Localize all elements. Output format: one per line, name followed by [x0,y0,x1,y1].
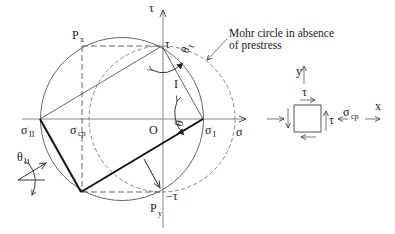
theta-i-arc-arrow [152,63,183,73]
svg-text:y: y [158,209,162,218]
tau-point-label: τ [165,37,170,51]
line-i-label: I [174,77,178,91]
svg-text:σ: σ [205,123,212,137]
arrow-to-py [144,159,160,188]
element-square [294,105,321,132]
stress-element: y τ τ σ cp x [267,64,381,137]
tau-axis-label: τ [149,1,154,15]
svg-text:σ: σ [21,123,28,137]
px-label: P x [72,28,84,44]
annotation-text: Mohr circle in absence of prestress [229,27,334,52]
svg-text:Mohr circle in absence: Mohr circle in absence [229,27,334,39]
svg-text:θ: θ [17,150,23,164]
sigma-cp-axis-label: σ cp [70,123,86,138]
theta-i-symbol [18,163,46,195]
py-label: P y [150,201,162,218]
sigma-i-label: σ I [205,123,216,139]
svg-text:cp: cp [351,112,359,121]
svg-text:of prestress: of prestress [229,39,282,52]
theta-i-label-top: θ I [178,41,196,56]
svg-text:cp: cp [78,129,86,138]
annotation-leader [207,39,227,60]
svg-text:σ: σ [70,123,77,137]
svg-text:P: P [72,28,79,42]
svg-text:II: II [29,130,35,139]
svg-text:I: I [24,157,27,166]
svg-text:P: P [150,201,157,215]
svg-text:σ: σ [343,105,350,119]
y-axis-label: y [296,64,302,78]
thin-lines [40,46,203,119]
theta-label: θ [171,118,186,127]
x-axis-label: x [375,99,381,113]
mohr-circle-figure: τ σ O τ −τ P x P y σ I σ II σ cp θ I I θ… [0,0,395,234]
svg-text:I: I [213,130,216,139]
sigma-ii-label: σ II [21,123,35,139]
sigma-axis-label: σ [236,125,243,139]
element-sigma-cp-label: σ cp [343,105,359,121]
origin-label: O [149,123,158,137]
svg-text:x: x [80,35,84,44]
theta-i-symbol-label: θ I [17,150,27,166]
svg-text:θ: θ [171,118,186,127]
theta-arc-arrow [175,101,184,135]
principal-lines [40,119,203,192]
element-tau-right: τ [329,113,334,127]
neg-tau-label: −τ [166,189,178,203]
element-tau-top: τ [302,85,307,99]
